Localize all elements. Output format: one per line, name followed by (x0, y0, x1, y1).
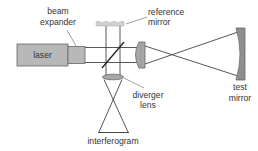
beam-expander (68, 47, 85, 64)
beam-splitter (102, 42, 124, 68)
beam-expander-label-2: expander (40, 17, 76, 27)
diverger-lens-label-1: diverger (132, 90, 163, 100)
interferogram-label: interferogram (87, 136, 138, 146)
reference-beam-rays (106, 26, 120, 75)
laser-label: laser (33, 50, 52, 60)
diverger-lens-leader (124, 78, 144, 88)
test-mirror (236, 28, 245, 80)
main-beam-rays (85, 48, 137, 63)
test-beam-rays (145, 32, 238, 76)
diverger-lens (103, 74, 124, 80)
reference-mirror-label-1: reference (148, 7, 185, 17)
test-mirror-label-1: test (233, 82, 247, 92)
reference-mirror-leader (126, 17, 147, 24)
beam-expander-label-1: beam (47, 6, 69, 16)
diverger-lens-label-2: lens (140, 100, 156, 110)
interferogram-rays (99, 80, 128, 133)
test-mirror-label-2: mirror (229, 93, 252, 103)
interferometer-diagram: laser (0, 0, 258, 151)
reference-mirror-label-2: mirror (148, 17, 171, 27)
lens (136, 42, 146, 68)
beam-expander-leader (67, 30, 76, 46)
reference-mirror (96, 21, 124, 26)
laser: laser (17, 44, 68, 66)
